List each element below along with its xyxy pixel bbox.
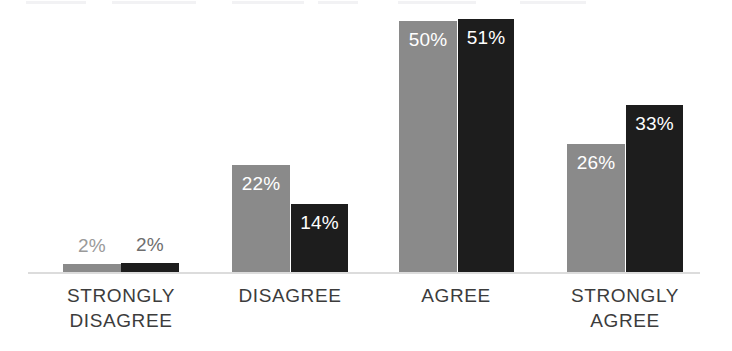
bar-value-label: 14%	[291, 213, 348, 232]
baseline-axis	[28, 272, 700, 274]
bar-value-label: 2%	[63, 236, 121, 255]
category-label-strongly-agree: STRONGLY AGREE	[535, 283, 715, 333]
bar-value-label: 33%	[626, 114, 683, 133]
chart-screenshot: 2%2%22%14%50%51%26%33%STRONGLY DISAGREED…	[0, 0, 732, 351]
bar-strongly-agree-b: 33%	[626, 105, 683, 272]
bar-disagree-b: 14%	[291, 204, 348, 272]
bar-value-label: 26%	[567, 153, 625, 172]
category-label-disagree: DISAGREE	[200, 283, 380, 308]
bar-value-label: 51%	[458, 28, 514, 47]
bar-value-label: 50%	[399, 30, 457, 49]
bar-agree-b: 51%	[458, 19, 514, 272]
bar-strongly-disagree-b: 2%	[121, 263, 179, 272]
bar-disagree-a: 22%	[232, 165, 290, 272]
bar-value-label: 22%	[232, 174, 290, 193]
bar-strongly-disagree-a: 2%	[63, 264, 121, 272]
category-label-agree: AGREE	[366, 283, 546, 308]
bar-agree-a: 50%	[399, 21, 457, 272]
bar-value-label: 2%	[121, 235, 179, 254]
bar-strongly-agree-a: 26%	[567, 144, 625, 272]
bar-chart-plot-area: 2%2%22%14%50%51%26%33%STRONGLY DISAGREED…	[0, 0, 732, 351]
category-label-strongly-disagree: STRONGLY DISAGREE	[31, 283, 211, 333]
